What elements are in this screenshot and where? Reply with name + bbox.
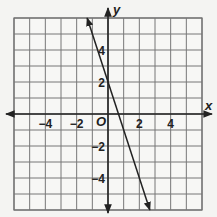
y-tick-label: −2 bbox=[91, 140, 105, 154]
x-tick-label: −4 bbox=[38, 117, 52, 131]
x-axis-label: x bbox=[204, 98, 213, 113]
y-axis-label: y bbox=[112, 2, 121, 17]
x-tick-label: 4 bbox=[167, 117, 174, 131]
x-tick-label: 2 bbox=[136, 117, 143, 131]
y-tick-label: 2 bbox=[98, 76, 105, 90]
x-tick-label: −2 bbox=[70, 117, 84, 131]
coordinate-plane: xyO−4−22442−2−4 bbox=[0, 0, 217, 217]
y-tick-label: −4 bbox=[91, 172, 105, 186]
origin-label: O bbox=[96, 114, 106, 129]
